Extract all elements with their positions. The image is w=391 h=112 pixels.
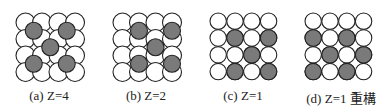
white-atom	[305, 47, 321, 63]
white-atom	[355, 30, 371, 46]
gray-atom	[58, 55, 75, 72]
gray-atom	[339, 63, 355, 79]
white-atom	[260, 13, 276, 29]
white-atom	[227, 13, 243, 29]
white-atom	[305, 13, 321, 29]
white-atom	[339, 13, 355, 29]
gray-atom	[25, 22, 42, 39]
panel-d: (d) Z=1 重構	[291, 0, 389, 112]
gray-atom	[260, 63, 276, 79]
gray-atom	[322, 47, 338, 63]
gray-atom	[131, 22, 148, 39]
white-atom	[339, 47, 355, 63]
white-atom	[244, 13, 260, 29]
white-atom	[322, 13, 338, 29]
white-atom	[322, 30, 338, 46]
gray-atom	[227, 63, 243, 79]
white-atom	[227, 47, 243, 63]
panel-a: (a) Z=4	[0, 0, 98, 112]
panel-b: (b) Z=2	[97, 0, 195, 112]
white-atom	[355, 63, 371, 79]
caption-a: (a) Z=4	[0, 88, 98, 104]
gray-atom	[131, 55, 148, 72]
gray-atom	[355, 47, 371, 63]
gray-atom	[305, 63, 321, 79]
gray-atom	[260, 30, 276, 46]
panel-c: (c) Z=1	[194, 0, 292, 112]
white-atom	[210, 13, 226, 29]
white-atom	[244, 30, 260, 46]
lattice-diagram-b	[97, 0, 195, 88]
gray-atom	[305, 30, 321, 46]
lattice-diagram-d	[291, 0, 391, 88]
white-atom	[355, 13, 371, 29]
caption-c: (c) Z=1	[194, 88, 292, 104]
gray-atom	[227, 30, 243, 46]
lattice-diagram-c	[194, 0, 292, 88]
gray-atom	[25, 55, 42, 72]
white-atom	[322, 63, 338, 79]
white-atom	[260, 47, 276, 63]
caption-b: (b) Z=2	[97, 88, 195, 104]
gray-atom	[339, 30, 355, 46]
lattice-diagram-a	[0, 0, 98, 88]
gray-atom	[147, 39, 164, 56]
gray-atom	[244, 47, 260, 63]
caption-d: (d) Z=1 重構	[291, 88, 391, 107]
gray-atom	[42, 39, 59, 56]
white-atom	[210, 30, 226, 46]
gray-atom	[164, 55, 181, 72]
gray-atom	[164, 22, 181, 39]
white-atom	[244, 63, 260, 79]
gray-atom	[58, 22, 75, 39]
white-atom	[210, 63, 226, 79]
white-atom	[210, 47, 226, 63]
